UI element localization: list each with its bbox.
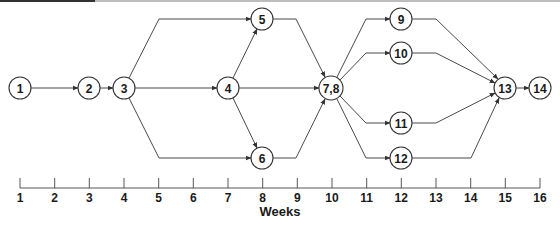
weeks-axis: 12345678910111213141516 Weeks xyxy=(17,178,547,219)
edge-3-to-6 xyxy=(129,98,251,158)
node-label: 3 xyxy=(121,82,128,96)
edge-78-to-9 xyxy=(337,19,390,77)
node-4: 4 xyxy=(217,77,239,99)
tick-label: 2 xyxy=(51,191,58,205)
axis-title: Weeks xyxy=(260,204,301,219)
tick-label: 7 xyxy=(225,191,232,205)
tick-label: 6 xyxy=(190,191,197,205)
tick-label: 8 xyxy=(259,191,266,205)
node-12: 12 xyxy=(390,147,412,169)
node-13: 13 xyxy=(494,77,516,99)
edge-78-to-12 xyxy=(337,99,390,158)
node-label: 1 xyxy=(17,82,24,96)
tick-label: 1 xyxy=(17,191,24,205)
node-2: 2 xyxy=(78,77,100,99)
node-14: 14 xyxy=(529,77,551,99)
edge-4-to-5 xyxy=(233,29,257,78)
edge-12-to-13 xyxy=(412,98,499,158)
edge-11-to-13 xyxy=(412,93,495,123)
network-diagram: 1234567,891011121314 1234567891011121314… xyxy=(0,0,560,227)
tick-label: 10 xyxy=(325,191,339,205)
node-7-8: 7,8 xyxy=(319,76,343,100)
node-3: 3 xyxy=(113,77,135,99)
edge-10-to-13 xyxy=(412,53,495,83)
edge-3-to-5 xyxy=(129,19,251,78)
tick-label: 9 xyxy=(294,191,301,205)
node-10: 10 xyxy=(390,42,412,64)
node-1: 1 xyxy=(9,77,31,99)
node-label: 7,8 xyxy=(323,82,340,96)
node-label: 12 xyxy=(394,152,408,166)
tick-label: 3 xyxy=(86,191,93,205)
tick-label: 14 xyxy=(464,191,478,205)
node-label: 10 xyxy=(394,47,408,61)
node-label: 2 xyxy=(86,82,93,96)
node-6: 6 xyxy=(251,147,273,169)
tick-label: 5 xyxy=(155,191,162,205)
node-11: 11 xyxy=(390,112,412,134)
edge-5-to-78 xyxy=(273,19,325,77)
tick-label: 15 xyxy=(499,191,513,205)
tick-label: 11 xyxy=(360,191,373,205)
node-label: 14 xyxy=(533,82,547,96)
tick-label: 4 xyxy=(121,191,128,205)
node-label: 4 xyxy=(225,82,232,96)
node-9: 9 xyxy=(390,8,412,30)
node-label: 5 xyxy=(259,13,266,27)
edges-layer xyxy=(31,19,529,158)
tick-label: 16 xyxy=(533,191,547,205)
node-label: 9 xyxy=(398,13,405,27)
node-5: 5 xyxy=(251,8,273,30)
node-label: 6 xyxy=(259,152,266,166)
node-label: 11 xyxy=(395,117,408,131)
axis-ticks: 12345678910111213141516 xyxy=(17,178,547,205)
edge-9-to-13 xyxy=(412,19,498,79)
tick-label: 12 xyxy=(395,191,409,205)
tick-label: 13 xyxy=(429,191,443,205)
node-label: 13 xyxy=(498,82,512,96)
edge-4-to-6 xyxy=(233,98,257,148)
edge-6-to-78 xyxy=(273,99,325,158)
edge-78-to-11 xyxy=(340,96,390,123)
